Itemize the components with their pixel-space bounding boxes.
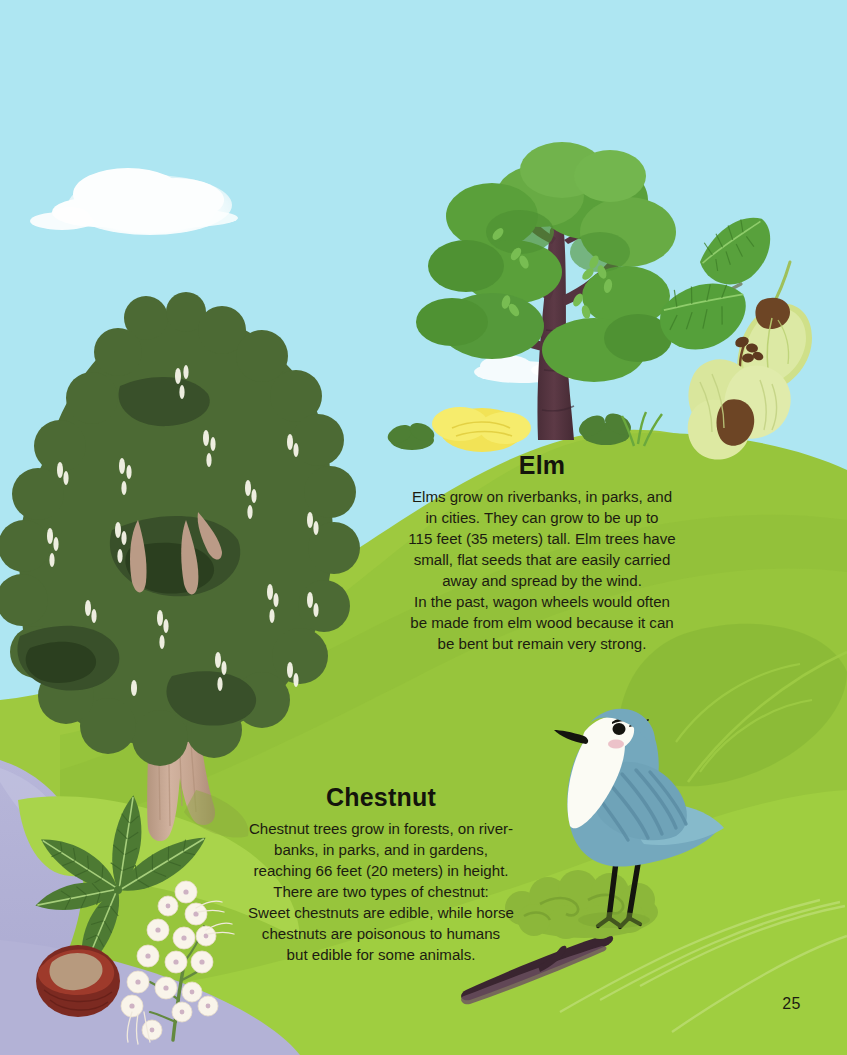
elm-body-line: away and spread by the wind. <box>392 570 692 591</box>
elm-body: Elms grow on riverbanks, in parks, and i… <box>392 486 692 655</box>
book-page: Elm Elms grow on riverbanks, in parks, a… <box>0 0 847 1055</box>
elm-heading: Elm <box>392 452 692 480</box>
elm-body-line: 115 feet (35 meters) tall. Elm trees hav… <box>392 528 692 549</box>
chestnut-body-line: There are two types of chestnut: <box>236 881 526 902</box>
chestnut-body-line: Sweet chestnuts are edible, while horse <box>236 902 526 923</box>
elm-body-line: be made from elm wood because it can <box>392 612 692 633</box>
elm-body-line: in cities. They can grow to be up to <box>392 507 692 528</box>
elm-article: Elm Elms grow on riverbanks, in parks, a… <box>392 452 692 654</box>
chestnut-body-line: banks, in parks, and in gardens, <box>236 839 526 860</box>
conker <box>36 945 120 1017</box>
bird-eye <box>613 723 626 735</box>
bird-shadow <box>578 912 650 928</box>
elm-body-line: small, flat seeds that are easily carrie… <box>392 549 692 570</box>
chestnut-article: Chestnut Chestnut trees grow in forests,… <box>236 784 526 965</box>
bird-cheek <box>608 740 624 749</box>
chestnut-heading: Chestnut <box>236 784 526 812</box>
chestnut-body-line: chestnuts are poisonous to humans <box>236 923 526 944</box>
chestnut-body-line: reaching 66 feet (20 meters) in height. <box>236 860 526 881</box>
chestnut-body: Chestnut trees grow in forests, on river… <box>236 818 526 966</box>
chestnut-body-line: but edible for some animals. <box>236 944 526 965</box>
elm-body-line: Elms grow on riverbanks, in parks, and <box>392 486 692 507</box>
chestnut-body-line: Chestnut trees grow in forests, on river… <box>236 818 526 839</box>
elm-body-line: be bent but remain very strong. <box>392 633 692 654</box>
elm-body-line: In the past, wagon wheels would often <box>392 591 692 612</box>
page-number: 25 <box>782 995 801 1013</box>
